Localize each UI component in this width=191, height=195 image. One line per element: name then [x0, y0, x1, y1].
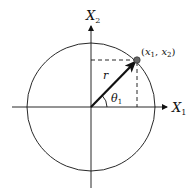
point-marker [134, 57, 140, 63]
radius-label: r [103, 69, 109, 82]
angle-arc [102, 96, 107, 107]
x2-axis-label: X2 [85, 8, 100, 25]
point-label: (x1, x2) [141, 46, 175, 59]
x1-axis-label: X1 [171, 100, 186, 117]
polar-diagram: X2 X1 (x1, x2) r θ1 [0, 0, 191, 195]
angle-label: θ1 [111, 92, 122, 106]
